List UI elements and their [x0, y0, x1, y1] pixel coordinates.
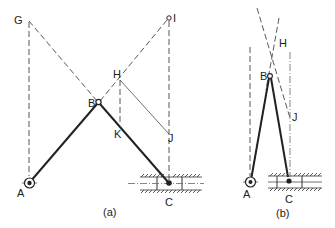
caption-b: (b) [276, 207, 289, 219]
panel-b: H B J A C (b) [243, 8, 322, 219]
panel-a: G I H B K J A C (a) [14, 12, 204, 218]
link-AB [30, 104, 97, 182]
label-B: B [88, 97, 95, 109]
label-A: A [17, 187, 25, 199]
label-J: J [168, 132, 174, 144]
link-BC [100, 104, 168, 182]
label-B: B [260, 70, 267, 82]
label-H: H [113, 68, 121, 80]
label-A: A [243, 188, 251, 200]
joint-B [268, 74, 273, 79]
line-through-B-1 [257, 8, 290, 118]
ground-pivot-A [243, 177, 258, 187]
label-I: I [173, 12, 176, 24]
label-C: C [165, 196, 173, 208]
label-J: J [292, 111, 298, 123]
point-I [167, 16, 171, 20]
label-K: K [114, 128, 122, 140]
link-BC [271, 78, 288, 177]
joint-B [96, 99, 101, 104]
line-BI [100, 20, 167, 101]
label-H: H [279, 37, 287, 49]
slider-C [268, 173, 322, 191]
caption-a: (a) [103, 206, 116, 218]
label-C: C [285, 193, 293, 205]
line-HJ [120, 80, 169, 134]
label-G: G [14, 14, 23, 26]
mechanism-diagram: G I H B K J A C (a) [0, 0, 335, 228]
link-AB [251, 78, 269, 180]
slider-C [128, 174, 204, 193]
line-GB [29, 21, 97, 101]
